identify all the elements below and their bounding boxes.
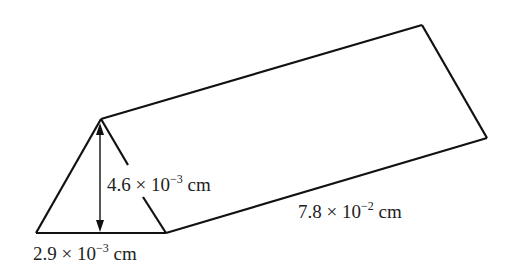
length-label: 7.8 × 10−2 cm bbox=[298, 193, 402, 222]
prism-back-edge bbox=[422, 25, 487, 138]
prism-top-edge bbox=[101, 25, 422, 119]
height-label: 4.6 × 10−3 cm bbox=[107, 166, 211, 195]
base-label: 2.9 × 10−3 cm bbox=[33, 235, 137, 264]
triangular-prism-diagram: 4.6 × 10−3 cm 2.9 × 10−3 cm 7.8 × 10−2 c… bbox=[0, 0, 514, 271]
triangle-right-edge-lower bbox=[143, 197, 166, 233]
triangle-right-edge-upper bbox=[101, 119, 128, 165]
height-arrow-bottom-head bbox=[96, 220, 104, 232]
triangle-left-edge bbox=[36, 119, 101, 233]
